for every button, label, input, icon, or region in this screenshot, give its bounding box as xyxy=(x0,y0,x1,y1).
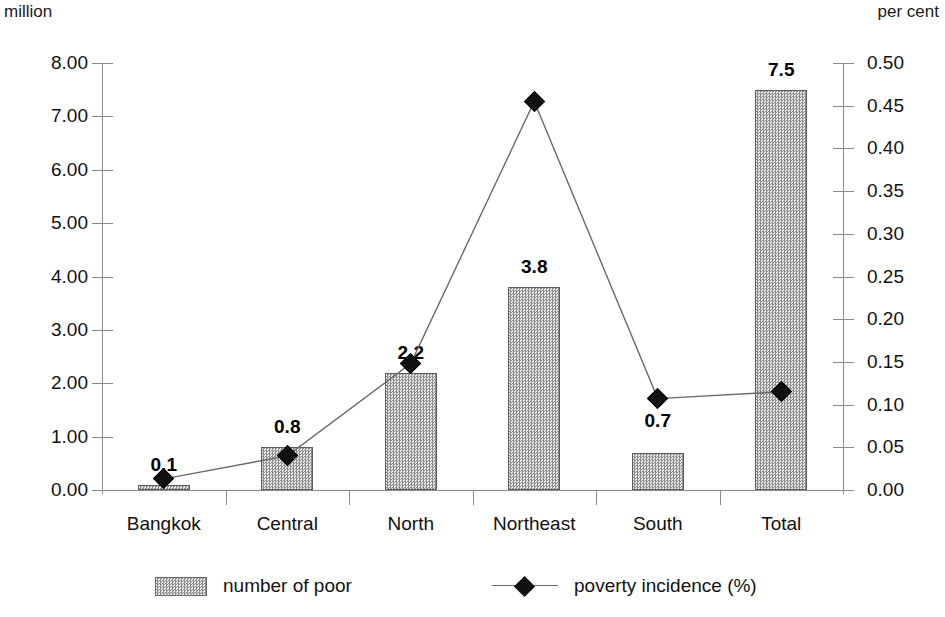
legend-item-poverty-incidence: poverty incidence (%) xyxy=(492,575,757,597)
legend-bar-label: number of poor xyxy=(223,575,352,597)
legend-item-number-of-poor: number of poor xyxy=(155,575,352,597)
chart-legend: number of poor poverty incidence (%) xyxy=(0,565,945,611)
diamond-marker-icon xyxy=(514,576,535,597)
line-path xyxy=(164,101,782,478)
legend-line-marker xyxy=(492,577,558,595)
legend-bar-swatch xyxy=(155,577,207,596)
poverty-incidence-line xyxy=(0,0,945,617)
legend-line-label: poverty incidence (%) xyxy=(574,575,757,597)
plot-area: 8.007.006.005.004.003.002.001.000.000.50… xyxy=(0,0,945,617)
poverty-chart: million per cent 8.007.006.005.004.003.0… xyxy=(0,0,945,617)
